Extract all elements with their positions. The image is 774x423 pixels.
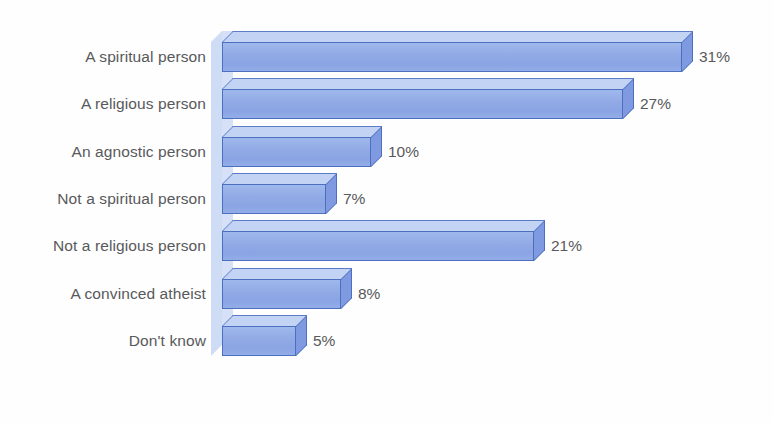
- bar-front-face-2: [222, 137, 371, 167]
- bar-top-face-6: [222, 315, 307, 326]
- bar-top-face-2: [222, 126, 382, 137]
- value-label-6: 5%: [313, 332, 335, 350]
- bar-front-face-5: [222, 279, 341, 309]
- bar-6: [222, 326, 296, 356]
- bar-2: [222, 137, 371, 167]
- value-label-1: 27%: [640, 95, 671, 113]
- category-label-1: A religious person: [81, 95, 206, 113]
- bar-front-face-4: [222, 231, 534, 261]
- category-label-2: An agnostic person: [72, 143, 207, 161]
- value-label-0: 31%: [699, 48, 730, 66]
- bar-1: [222, 89, 623, 119]
- category-label-4: Not a religious person: [53, 237, 206, 255]
- category-label-5: A convinced atheist: [71, 285, 206, 303]
- bar-top-face-4: [222, 220, 545, 231]
- bar-front-face-1: [222, 89, 623, 119]
- value-label-5: 8%: [358, 285, 380, 303]
- bar-4: [222, 231, 534, 261]
- value-label-4: 21%: [551, 237, 582, 255]
- bar-5: [222, 279, 341, 309]
- bar-chart: A spiritual person A religious person An…: [0, 0, 774, 423]
- bar-front-face-6: [222, 326, 296, 356]
- bar-3: [222, 184, 326, 214]
- bar-top-face-1: [222, 78, 634, 89]
- category-label-3: Not a spiritual person: [57, 190, 206, 208]
- bar-top-face-0: [222, 31, 693, 42]
- bar-top-face-3: [222, 173, 337, 184]
- bar-top-face-5: [222, 268, 352, 279]
- value-label-3: 7%: [343, 190, 365, 208]
- bar-0: [222, 42, 682, 72]
- category-label-6: Don't know: [129, 332, 206, 350]
- bar-front-face-3: [222, 184, 326, 214]
- value-label-2: 10%: [388, 143, 419, 161]
- bar-front-face-0: [222, 42, 682, 72]
- category-label-0: A spiritual person: [85, 48, 206, 66]
- axis-wall-depth-face: [211, 31, 222, 356]
